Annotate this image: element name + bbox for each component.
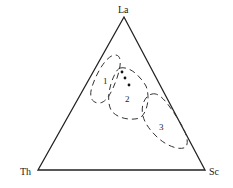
field-3-outline bbox=[142, 94, 187, 149]
sample-point bbox=[128, 84, 131, 87]
field-label-1: 1 bbox=[103, 76, 108, 86]
vertex-label-th: Th bbox=[20, 166, 31, 177]
vertex-label-la: La bbox=[118, 4, 129, 15]
ternary-triangle bbox=[38, 17, 205, 170]
ternary-diagram: La Th Sc 1 2 3 bbox=[0, 0, 233, 188]
sample-point bbox=[124, 77, 127, 80]
vertex-label-sc: Sc bbox=[209, 166, 220, 177]
sample-point bbox=[121, 71, 124, 74]
field-label-2: 2 bbox=[125, 94, 130, 104]
field-label-3: 3 bbox=[159, 122, 164, 132]
